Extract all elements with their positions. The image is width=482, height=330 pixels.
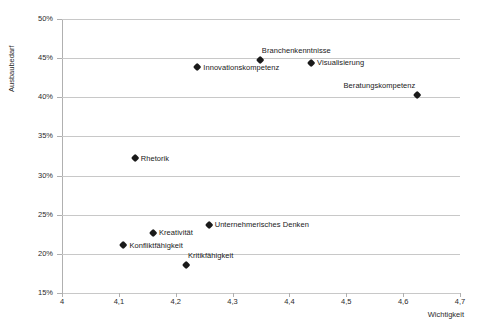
data-point-label: Branchenkenntnisse <box>262 46 331 55</box>
scatter-chart: Ausbaubedarf Wichtigkeit 15%20%25%30%35%… <box>0 0 482 330</box>
x-axis-tick-label: 4,1 <box>99 297 139 306</box>
data-point-label: Innovationskompetenz <box>203 63 279 72</box>
x-axis-title: Wichtigkeit <box>428 310 464 319</box>
y-axis-tick-label: 50% <box>22 14 53 23</box>
x-axis-tick-label: 4,5 <box>326 297 366 306</box>
data-point-label: Beratungskompetenz <box>344 81 416 90</box>
data-point-marker <box>193 63 202 72</box>
y-axis-tick-label: 30% <box>22 171 53 180</box>
x-axis-tick-label: 4,3 <box>213 297 253 306</box>
y-axis-tick-label: 20% <box>22 249 53 258</box>
data-point-marker <box>181 260 190 269</box>
data-point-label: Kritikfähigkeit <box>188 251 233 260</box>
data-point-marker <box>204 220 213 229</box>
y-axis-tick-label: 15% <box>22 288 53 297</box>
x-axis-tick-label: 4 <box>42 297 82 306</box>
data-point-marker <box>119 241 128 250</box>
plot-area: InnovationskompetenzBranchenkenntnisseVi… <box>62 19 460 293</box>
y-axis-tick-label: 45% <box>22 53 53 62</box>
y-axis-tick-label: 40% <box>22 92 53 101</box>
data-point-marker <box>413 90 422 99</box>
data-point-marker <box>307 58 316 67</box>
x-axis-tick-label: 4,4 <box>269 297 309 306</box>
data-point-label: Unternehmerisches Denken <box>215 220 309 229</box>
data-point-marker <box>130 154 139 163</box>
data-point-label: Kreativität <box>159 228 193 237</box>
y-gridline <box>62 293 460 294</box>
x-axis-tick-label: 4,6 <box>383 297 423 306</box>
data-point-label: Konfliktfähigkeit <box>129 241 182 250</box>
y-axis-tick-label: 35% <box>22 131 53 140</box>
y-axis-title: Ausbaubedarf <box>7 45 16 92</box>
x-axis-tick-label: 4,2 <box>156 297 196 306</box>
data-point-label: Rhetorik <box>141 154 169 163</box>
data-point-label: Visualisierung <box>317 58 364 67</box>
data-point-marker <box>148 228 157 237</box>
y-axis-title-wrapper: Ausbaubedarf <box>0 0 22 300</box>
x-axis-tick-label: 4,7 <box>440 297 480 306</box>
y-axis-tick-label: 25% <box>22 210 53 219</box>
